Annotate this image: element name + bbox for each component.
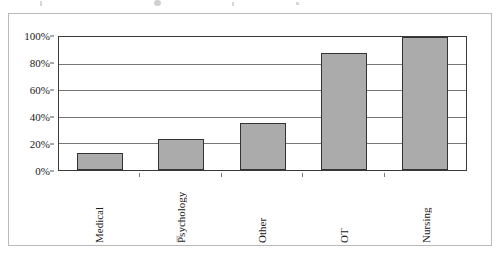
bar-chart: 0%20%40%60%80%100% MedicalPsychologyOthe…	[9, 14, 491, 245]
x-slot: OT	[303, 173, 385, 243]
y-tick-mark	[50, 63, 54, 64]
scan-speck	[296, 2, 299, 5]
chart-outer-frame: 0%20%40%60%80%100% MedicalPsychologyOthe…	[8, 13, 492, 246]
x-tick-label-nursing: Nursing	[420, 177, 432, 243]
bar-slot	[59, 37, 140, 170]
y-tick-mark	[50, 144, 54, 145]
scan-speck	[232, 2, 234, 6]
x-tick-label-medical: Medical	[93, 177, 105, 243]
x-slot: Other	[222, 173, 304, 243]
bar-slot	[385, 37, 466, 170]
plot-area	[58, 36, 467, 171]
bar-other[interactable]	[240, 123, 286, 170]
x-slot: Medical	[58, 173, 140, 243]
y-tick-label: 40%	[30, 111, 50, 123]
scan-artifact-top	[0, 0, 502, 11]
bar-medical[interactable]	[77, 153, 123, 170]
y-tick-mark	[50, 171, 54, 172]
scan-speck	[40, 1, 42, 6]
scan-artifact-bottom: p	[176, 233, 188, 242]
bar-psychology[interactable]	[158, 139, 204, 170]
y-tick-mark	[50, 36, 54, 37]
bar-slot	[222, 37, 303, 170]
scan-speck	[154, 0, 161, 6]
bar-ot[interactable]	[321, 53, 367, 170]
y-axis: 0%20%40%60%80%100%	[9, 36, 54, 171]
y-tick-label: 80%	[30, 57, 50, 69]
y-tick-mark	[50, 90, 54, 91]
x-tick-label-other: Other	[256, 177, 268, 243]
bars-group	[59, 37, 466, 170]
y-tick-mark	[50, 117, 54, 118]
x-tick-label-ot: OT	[338, 177, 350, 243]
x-axis: MedicalPsychologyOtherOTNursing	[58, 173, 467, 243]
bar-slot	[140, 37, 221, 170]
x-slot: Nursing	[385, 173, 467, 243]
y-tick-label: 100%	[24, 30, 50, 42]
y-tick-label: 60%	[30, 84, 50, 96]
y-tick-label: 0%	[35, 165, 50, 177]
y-tick-label: 20%	[30, 138, 50, 150]
bar-nursing[interactable]	[402, 37, 448, 170]
bar-slot	[303, 37, 384, 170]
